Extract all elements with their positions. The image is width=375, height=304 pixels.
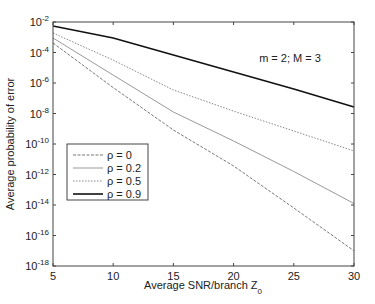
y-tick-label: 10-14 [25,197,49,211]
y-tick-label: 10-12 [25,167,49,181]
y-tick-label: 10-6 [30,75,50,89]
x-tick-label: 25 [288,270,300,282]
x-tick-label: 30 [348,270,360,282]
x-axis-label: Average SNR/branch Z0 [144,279,263,296]
y-tick-label: 10-2 [30,14,50,28]
series-line-2 [53,33,354,151]
x-tick-label: 10 [107,270,119,282]
legend-label: ρ = 0 [107,149,132,161]
annotation: m = 2; M = 3 [259,52,321,64]
legend: ρ = 0ρ = 0.2ρ = 0.5ρ = 0.9 [67,144,148,200]
y-tick-label: 10-8 [30,106,50,120]
chart: 51015202530 10-210-410-610-810-1010-1210… [0,0,375,304]
y-tick-label: 10-16 [25,228,49,242]
y-tick-label: 10-18 [25,258,49,272]
y-tick-label: 10-4 [30,45,50,59]
series-line-3 [53,26,354,107]
legend-label: ρ = 0.5 [107,175,141,187]
legend-label: ρ = 0.9 [107,188,141,200]
legend-label: ρ = 0.2 [107,162,141,174]
y-axis-label: Average probability of error [4,77,16,210]
y-tick-label: 10-10 [25,136,49,150]
x-tick-label: 5 [50,270,56,282]
